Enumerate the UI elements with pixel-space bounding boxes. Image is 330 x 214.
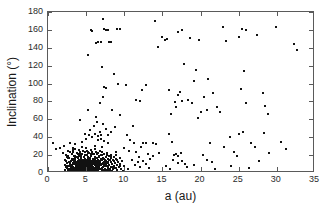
y-axis-tick-right	[309, 101, 313, 102]
data-point	[113, 167, 115, 169]
data-point	[206, 109, 208, 111]
data-point	[91, 153, 93, 155]
data-point	[202, 154, 204, 156]
data-point	[115, 154, 117, 156]
data-point	[113, 73, 115, 75]
x-tick-label: 10	[118, 174, 128, 184]
data-point	[64, 170, 66, 172]
data-point	[102, 166, 104, 168]
data-point	[90, 149, 92, 151]
data-point	[119, 165, 121, 167]
data-point	[137, 161, 139, 163]
y-axis-tick-right	[309, 84, 313, 85]
data-point	[145, 84, 147, 86]
data-point	[95, 170, 97, 172]
data-point	[101, 169, 103, 171]
data-point	[145, 142, 147, 144]
data-point	[175, 106, 177, 108]
data-point	[206, 159, 208, 161]
data-point	[93, 153, 95, 155]
data-point	[149, 158, 151, 160]
data-point	[121, 160, 123, 162]
plot-area	[47, 11, 314, 172]
data-point	[91, 30, 93, 32]
data-point	[87, 152, 89, 154]
data-point	[117, 83, 119, 85]
data-point	[65, 160, 67, 162]
data-point	[161, 36, 163, 38]
data-point	[119, 157, 121, 159]
data-point	[93, 125, 95, 127]
y-tick-label: 0	[38, 167, 43, 177]
data-point	[55, 148, 57, 150]
data-point	[157, 46, 159, 48]
data-point	[104, 165, 106, 167]
data-point	[69, 142, 71, 144]
data-point	[233, 151, 235, 153]
data-point	[193, 164, 195, 166]
data-point	[76, 161, 78, 163]
data-point	[198, 39, 200, 41]
data-point	[100, 41, 102, 43]
data-point	[101, 154, 103, 156]
data-point	[73, 171, 75, 172]
data-point	[106, 154, 108, 156]
data-point	[107, 134, 109, 136]
data-point	[154, 20, 156, 22]
data-point	[81, 171, 83, 172]
data-point	[223, 146, 225, 148]
x-tick-label: 5	[83, 174, 88, 184]
x-axis-tick	[124, 167, 125, 171]
data-point	[71, 171, 73, 172]
data-point	[108, 159, 110, 161]
data-point	[140, 146, 142, 148]
data-point	[200, 111, 202, 113]
data-point	[177, 162, 179, 164]
data-point	[82, 171, 84, 172]
data-point	[85, 147, 87, 149]
x-axis-tick	[201, 167, 202, 171]
data-point	[89, 129, 91, 131]
y-tick-label: 20	[33, 149, 43, 159]
y-axis-tick	[48, 119, 52, 120]
y-tick-label: 140	[28, 42, 43, 52]
data-point	[181, 100, 183, 102]
data-points-layer	[48, 12, 313, 171]
data-point	[96, 121, 98, 123]
data-point	[85, 138, 87, 140]
data-point	[125, 84, 127, 86]
data-point	[258, 160, 260, 162]
y-axis-tick	[48, 155, 52, 156]
data-point	[107, 142, 109, 144]
y-tick-label: 60	[33, 113, 43, 123]
x-axis-tick-top	[162, 12, 163, 16]
data-point	[184, 163, 186, 165]
y-axis-tick-right	[309, 119, 313, 120]
y-axis-tick	[48, 101, 52, 102]
data-point	[70, 160, 72, 162]
data-point	[81, 146, 83, 148]
data-point	[81, 141, 83, 143]
data-point	[127, 168, 129, 170]
data-point	[73, 160, 75, 162]
data-point	[147, 153, 149, 155]
data-point	[94, 148, 96, 150]
data-point	[158, 152, 160, 154]
data-point	[105, 128, 107, 130]
data-point	[165, 165, 167, 167]
data-point	[256, 34, 258, 36]
data-point	[195, 69, 197, 71]
data-point	[280, 141, 282, 143]
data-point	[230, 165, 232, 167]
data-point	[80, 155, 82, 157]
data-point	[172, 159, 174, 161]
data-point	[177, 94, 179, 96]
x-axis-tick	[239, 167, 240, 171]
data-point	[268, 152, 270, 154]
data-point	[74, 143, 76, 145]
data-point	[155, 143, 157, 145]
data-point	[174, 101, 176, 103]
data-point	[129, 139, 131, 141]
data-point	[74, 155, 76, 157]
data-point	[139, 166, 141, 168]
